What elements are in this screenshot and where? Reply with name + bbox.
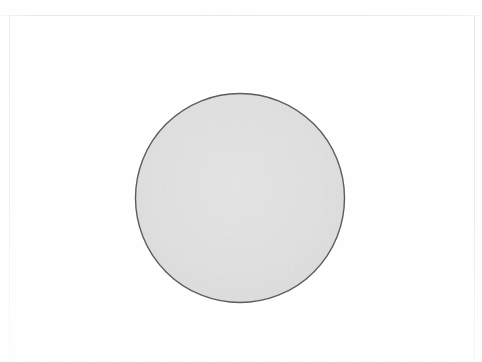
gray-circle-shape	[136, 94, 345, 303]
figure-canvas	[0, 0, 482, 362]
circle-figure-svg	[0, 0, 482, 362]
figure-layer	[0, 0, 482, 362]
